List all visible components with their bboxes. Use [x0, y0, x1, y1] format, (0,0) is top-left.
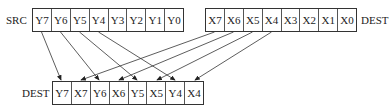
- arrow-y5: [80, 32, 138, 80]
- arrow-y6: [61, 32, 100, 80]
- dest-input-register: X7 X6 X5 X4 X3 X2 X1 X0: [205, 8, 357, 32]
- dest-in-cell: X1: [319, 9, 338, 31]
- src-cell: Y6: [52, 9, 71, 31]
- dest-out-cell: X7: [72, 82, 91, 104]
- dest-in-cell: X4: [263, 9, 282, 31]
- src-cell: Y1: [146, 9, 165, 31]
- dest-in-cell: X7: [206, 9, 225, 31]
- src-cell: Y0: [165, 9, 183, 31]
- src-cell: Y4: [90, 9, 109, 31]
- arrow-y7: [42, 32, 62, 80]
- dest-out-cell: Y6: [91, 82, 110, 104]
- dest-out-cell: Y4: [166, 82, 185, 104]
- src-label: SRC: [6, 13, 27, 27]
- dest-out-cell: X6: [110, 82, 129, 104]
- src-cell: Y7: [33, 9, 52, 31]
- dest-in-cell: X3: [282, 9, 301, 31]
- dest-out-cell: X5: [147, 82, 166, 104]
- dest-output-label: DEST: [22, 86, 50, 100]
- dest-out-cell: Y5: [129, 82, 148, 104]
- arrow-x4: [195, 32, 272, 80]
- dest-output-register: Y7 X7 Y6 X6 Y5 X5 Y4 X4: [52, 81, 204, 105]
- arrow-x5: [157, 32, 253, 80]
- src-register: Y7 Y6 Y5 Y4 Y3 Y2 Y1 Y0: [32, 8, 184, 32]
- dest-out-cell: X4: [185, 82, 203, 104]
- src-cell: Y5: [71, 9, 90, 31]
- src-cell: Y3: [109, 9, 128, 31]
- dest-input-label: DEST: [361, 13, 389, 27]
- dest-in-cell: X6: [225, 9, 244, 31]
- dest-in-cell: X5: [244, 9, 263, 31]
- dest-out-cell: Y7: [53, 82, 72, 104]
- dest-in-cell: X0: [338, 9, 356, 31]
- arrow-x7: [81, 32, 215, 80]
- src-cell: Y2: [127, 9, 146, 31]
- dest-in-cell: X2: [300, 9, 319, 31]
